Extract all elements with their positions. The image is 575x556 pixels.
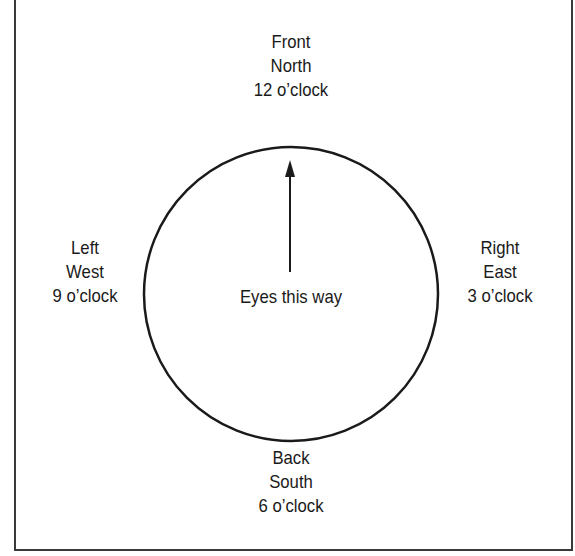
back-line1: Back xyxy=(221,446,362,470)
left-line2: West xyxy=(37,260,134,284)
up-arrow-icon xyxy=(285,160,295,177)
back-line3: 6 o’clock xyxy=(221,494,362,518)
left-line1: Left xyxy=(37,236,134,260)
label-left: Left West 9 o’clock xyxy=(37,236,134,308)
left-line3: 9 o’clock xyxy=(37,284,134,308)
center-label: Eyes this way xyxy=(221,285,362,309)
right-line2: East xyxy=(452,260,549,284)
front-line1: Front xyxy=(221,30,362,54)
right-line1: Right xyxy=(452,236,549,260)
label-front: Front North 12 o’clock xyxy=(221,30,362,102)
label-right: Right East 3 o’clock xyxy=(452,236,549,308)
label-back: Back South 6 o’clock xyxy=(221,446,362,518)
front-line3: 12 o’clock xyxy=(221,78,362,102)
right-line3: 3 o’clock xyxy=(452,284,549,308)
back-line2: South xyxy=(221,470,362,494)
front-line2: North xyxy=(221,54,362,78)
label-center: Eyes this way xyxy=(221,285,362,309)
